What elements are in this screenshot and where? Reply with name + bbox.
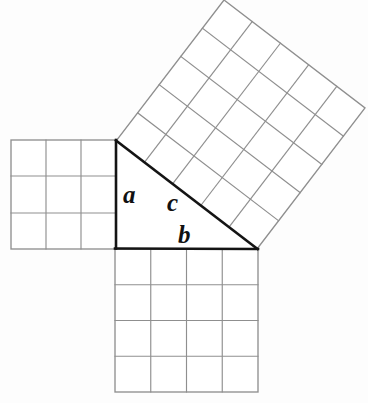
square-on-b xyxy=(115,249,258,392)
pythagorean-diagram: a c b xyxy=(0,0,368,403)
label-leg-b: b xyxy=(178,221,191,248)
triangle-leg-b xyxy=(115,249,258,250)
pythagoras-figure: a c b xyxy=(0,0,368,403)
square-on-a xyxy=(11,140,116,249)
label-leg-a: a xyxy=(123,181,136,208)
label-hypotenuse-c: c xyxy=(167,189,178,216)
square-on-a-outline xyxy=(11,140,116,249)
